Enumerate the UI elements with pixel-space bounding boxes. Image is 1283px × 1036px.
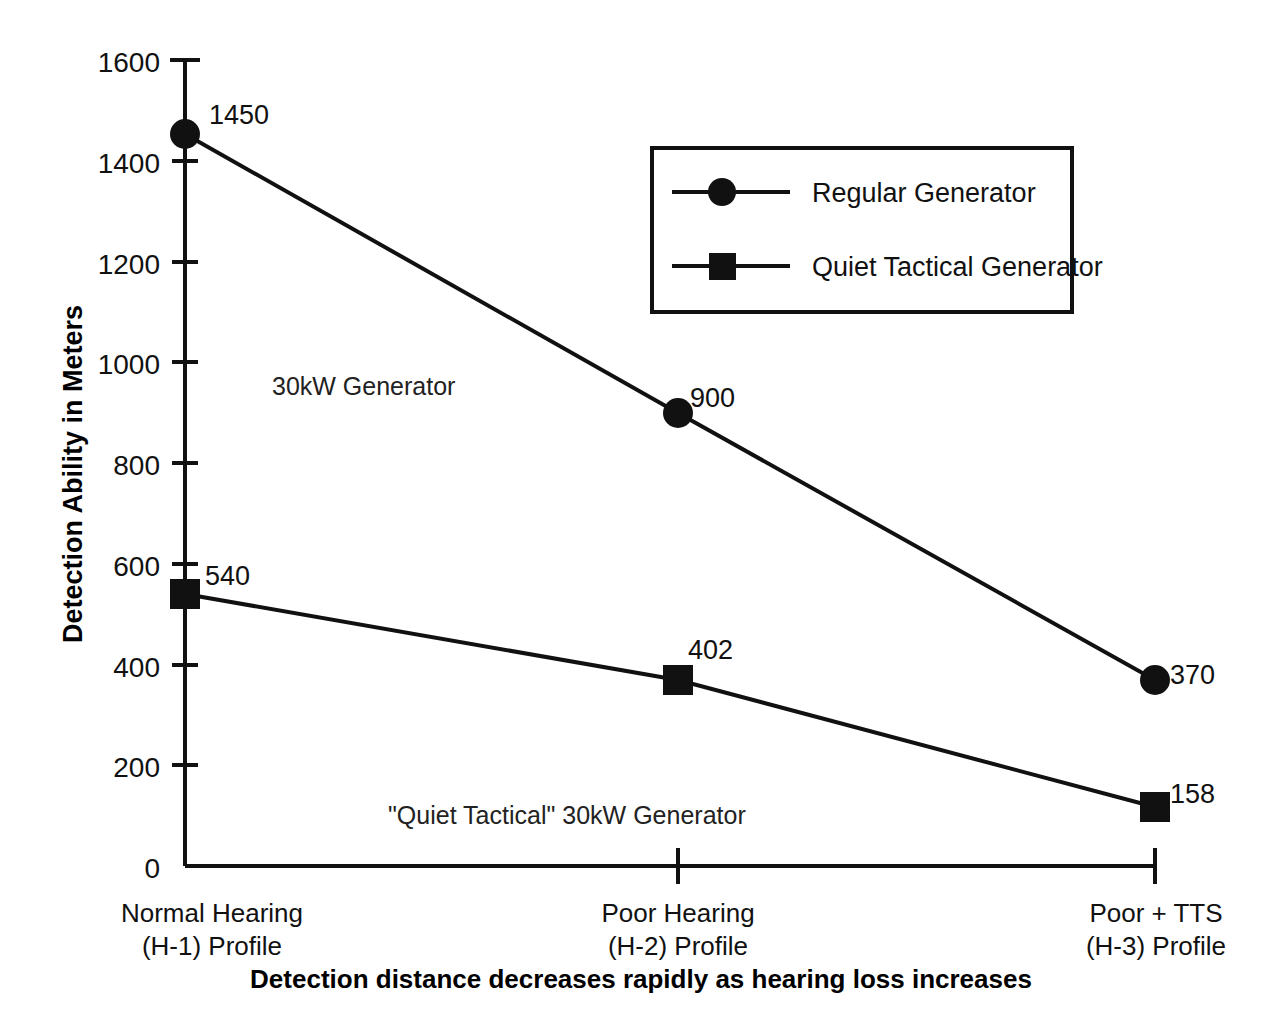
x-category-h1-line1: Normal Hearing xyxy=(121,898,303,928)
annotation-quiet-tactical-generator: "Quiet Tactical" 30kW Generator xyxy=(388,801,746,829)
value-label-quiet-h3: 158 xyxy=(1170,779,1215,809)
value-label-quiet-h1: 540 xyxy=(205,561,250,591)
y-tick-label-1200: 1200 xyxy=(98,249,160,280)
y-tick-label-1000: 1000 xyxy=(98,349,160,380)
chart-caption: Detection distance decreases rapidly as … xyxy=(250,964,1032,994)
y-tick-label-1400: 1400 xyxy=(98,148,160,179)
chart-page: 1600 1400 1200 1000 800 600 400 200 0 14… xyxy=(0,0,1283,1036)
legend-label-regular-generator: Regular Generator xyxy=(812,178,1036,208)
data-point-quiet-h1 xyxy=(170,579,200,609)
x-category-label-h1: Normal Hearing (H-1) Profile xyxy=(121,898,303,961)
x-category-h3-line1: Poor + TTS xyxy=(1089,898,1222,928)
data-point-regular-h3 xyxy=(1140,665,1170,695)
legend-label-quiet-tactical-generator: Quiet Tactical Generator xyxy=(812,252,1103,282)
x-category-h1-line2: (H-1) Profile xyxy=(142,931,282,961)
value-label-regular-h2: 900 xyxy=(690,383,735,413)
x-category-label-h3: Poor + TTS (H-3) Profile xyxy=(1086,898,1226,961)
x-category-label-h2: Poor Hearing (H-2) Profile xyxy=(601,898,754,961)
y-tick-label-400: 400 xyxy=(113,652,160,683)
value-label-regular-h1: 1450 xyxy=(209,100,269,130)
legend: Regular Generator Quiet Tactical Generat… xyxy=(652,148,1103,312)
data-point-quiet-h3 xyxy=(1140,792,1170,822)
x-category-h3-line2: (H-3) Profile xyxy=(1086,931,1226,961)
legend-box xyxy=(652,148,1072,312)
y-axis-title: Detection Ability in Meters xyxy=(58,305,88,643)
data-point-quiet-h2 xyxy=(663,665,693,695)
y-tick-label-800: 800 xyxy=(113,450,160,481)
legend-item-regular-generator[interactable]: Regular Generator xyxy=(672,178,1036,208)
x-category-h2-line1: Poor Hearing xyxy=(601,898,754,928)
value-label-regular-h3: 370 xyxy=(1170,660,1215,690)
legend-square-marker-icon xyxy=(709,253,736,280)
y-tick-label-0: 0 xyxy=(144,853,160,884)
y-tick-label-1600: 1600 xyxy=(98,47,160,78)
series-line-quiet-tactical-generator xyxy=(185,594,1155,807)
x-category-h2-line2: (H-2) Profile xyxy=(608,931,748,961)
data-point-regular-h1 xyxy=(170,119,200,149)
y-tick-label-200: 200 xyxy=(113,752,160,783)
value-label-quiet-h2: 402 xyxy=(688,635,733,665)
legend-item-quiet-tactical-generator[interactable]: Quiet Tactical Generator xyxy=(672,252,1103,282)
legend-circle-marker-icon xyxy=(708,178,736,206)
line-chart: 1600 1400 1200 1000 800 600 400 200 0 14… xyxy=(0,0,1283,1036)
data-point-regular-h2 xyxy=(663,398,693,428)
annotation-regular-generator: 30kW Generator xyxy=(272,372,455,400)
y-tick-label-600: 600 xyxy=(113,551,160,582)
